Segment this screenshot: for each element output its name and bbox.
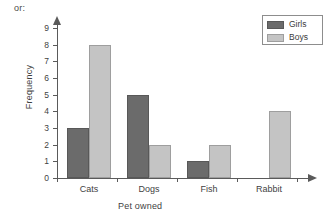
x-axis-tick bbox=[237, 178, 238, 182]
bar-dogs-boys bbox=[149, 145, 171, 178]
bar-fish-boys bbox=[209, 145, 231, 178]
bar-chart: 0123456789 Frequency CatsDogsFishRabbit … bbox=[0, 0, 331, 223]
x-axis-tick bbox=[57, 178, 58, 182]
y-axis-tick-label: 0 bbox=[29, 174, 49, 183]
chart-legend: GirlsBoys bbox=[262, 15, 323, 45]
bar-cats-boys bbox=[89, 45, 111, 178]
y-axis-tick bbox=[53, 45, 58, 46]
x-axis-arrow-icon bbox=[308, 174, 317, 182]
y-axis-tick bbox=[53, 145, 58, 146]
bar-cats-girls bbox=[67, 128, 89, 178]
x-axis-tick bbox=[297, 178, 298, 182]
x-axis-title: Pet owned bbox=[118, 201, 162, 211]
y-axis-tick-label: 2 bbox=[29, 141, 49, 150]
y-axis-tick-label: 1 bbox=[29, 157, 49, 166]
x-axis-tick bbox=[177, 178, 178, 182]
legend-label: Girls bbox=[289, 20, 306, 29]
bar-rabbit-boys bbox=[269, 111, 291, 178]
y-axis-tick bbox=[53, 111, 58, 112]
bar-dogs-girls bbox=[127, 95, 149, 178]
y-axis-tick-label: 3 bbox=[29, 124, 49, 133]
y-axis-tick-label: 8 bbox=[29, 41, 49, 50]
x-axis-tick bbox=[117, 178, 118, 182]
x-axis-tick-label-fish: Fish bbox=[179, 185, 239, 194]
y-axis-tick bbox=[53, 28, 58, 29]
y-axis-title: Frequency bbox=[24, 52, 34, 122]
x-axis-tick-label-dogs: Dogs bbox=[119, 185, 179, 194]
x-axis-tick-label-rabbit: Rabbit bbox=[239, 185, 299, 194]
y-axis-tick bbox=[53, 95, 58, 96]
y-axis-tick bbox=[53, 128, 58, 129]
legend-label: Boys bbox=[289, 33, 308, 42]
y-axis-line bbox=[57, 24, 58, 179]
y-axis-tick bbox=[53, 61, 58, 62]
y-axis-tick bbox=[53, 78, 58, 79]
x-axis-tick-label-cats: Cats bbox=[59, 185, 119, 194]
filled-square-light-icon bbox=[267, 34, 284, 42]
x-axis-line bbox=[57, 178, 309, 179]
y-axis-arrow-icon bbox=[53, 16, 61, 25]
y-axis-tick bbox=[53, 161, 58, 162]
legend-item-boys: Boys bbox=[267, 32, 318, 43]
filled-square-dark-icon bbox=[267, 21, 284, 29]
legend-item-girls: Girls bbox=[267, 19, 318, 30]
bar-fish-girls bbox=[187, 161, 209, 178]
y-axis-tick-label: 9 bbox=[29, 24, 49, 33]
